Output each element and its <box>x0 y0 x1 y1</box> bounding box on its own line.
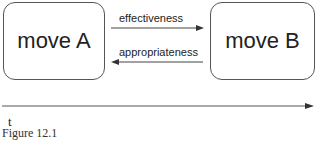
arrow-b-to-a <box>111 59 203 65</box>
diagram-arrows <box>0 0 317 141</box>
arrow-a-to-b <box>111 25 204 31</box>
figure-caption: Figure 12.1 <box>2 126 57 141</box>
timeline-arrow <box>2 103 314 109</box>
